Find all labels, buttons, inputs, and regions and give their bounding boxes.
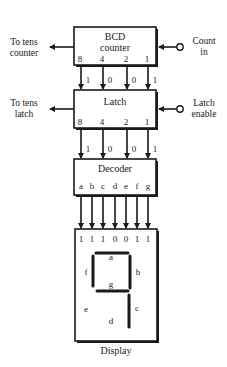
segment-label-g: g [109,279,114,289]
bit-value: 0 [132,75,137,85]
latch-output-1: 1 [145,117,150,127]
decoder-output-d: d [113,181,118,191]
bcd-counter-title-2: counter [100,42,131,53]
bcd-output-4: 4 [100,54,105,64]
segment-label-b: b [136,267,141,277]
display-caption: Display [100,345,131,356]
decoder-block: Decoder a b c d e f g [74,159,158,197]
bcd-to-latch-bus: 1 0 0 1 [81,67,157,89]
to-tens-latch-output: To tens latch [10,98,74,119]
input-terminal-icon [177,106,183,112]
segment-label-d: d [109,316,114,326]
bcd-output-1: 1 [145,54,150,64]
display-input-bit: 1 [146,234,151,244]
input-terminal-icon [177,44,183,50]
latch-enable-label-2: enable [192,109,217,119]
bit-value: 1 [153,75,158,85]
bcd-counter-title: BCD [105,31,126,42]
seven-segment-display: 1 1 1 0 0 1 1 a f b g e c d [75,229,159,343]
decoder-output-a: a [79,181,83,191]
bcd-output-8: 8 [78,54,83,64]
display-input-bit: 0 [124,234,129,244]
bit-value: 1 [86,75,91,85]
latch-output-8: 8 [78,117,83,127]
segment-label-c: c [135,303,139,313]
display-input-bit: 1 [101,234,106,244]
bit-value: 0 [108,144,113,154]
to-tens-counter-label-2: counter [10,48,39,58]
decoder-output-e: e [124,181,128,191]
decoder-output-g: g [146,181,151,191]
bit-value: 0 [132,144,137,154]
count-in-label: Count [192,36,216,46]
decoder-title: Decoder [98,163,133,174]
latch-output-4: 4 [100,117,105,127]
decoder-output-c: c [101,181,105,191]
latch-to-decoder-bus: 1 0 0 1 [81,130,157,158]
to-tens-counter-output: To tens counter [10,37,74,58]
segment-label-a: a [109,252,113,262]
to-tens-latch-label-2: latch [15,109,34,119]
to-tens-counter-label: To tens [10,37,38,47]
bit-value: 1 [86,144,91,154]
count-in-label-2: in [200,47,208,57]
latch-enable-label: Latch [193,98,215,108]
bcd-counter-block: BCD counter 8 4 2 1 [74,27,158,67]
latch-output-2: 2 [124,117,129,127]
decoder-output-f: f [136,181,139,191]
segment-label-f: f [85,267,88,277]
bit-value: 1 [153,144,158,154]
display-input-bit: 1 [90,234,95,244]
latch-block: Latch 8 4 2 1 [74,90,158,130]
display-input-bit: 1 [135,234,140,244]
bcd-output-2: 2 [124,54,129,64]
latch-title: Latch [104,96,127,107]
display-input-bit: 1 [79,234,84,244]
segment-label-e: e [84,304,88,314]
count-in-input: Count in [159,36,216,57]
decoder-output-b: b [90,181,95,191]
decoder-to-display-bus [81,195,148,228]
bit-value: 0 [108,75,113,85]
latch-enable-input: Latch enable [159,98,216,119]
display-input-bit: 0 [113,234,118,244]
to-tens-latch-label: To tens [10,98,38,108]
bcd-seven-segment-diagram: BCD counter 8 4 2 1 To tens counter Coun… [0,0,227,367]
